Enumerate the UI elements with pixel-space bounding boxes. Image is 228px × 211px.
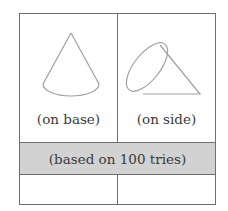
column-divider-bottom: [117, 175, 118, 205]
cone-upright-icon: [20, 14, 117, 114]
label-on-base: (on base): [20, 111, 117, 127]
cone-on-side-icon: [118, 14, 215, 114]
cell-on-side: (on side): [118, 14, 215, 142]
cone-table: (on base) (on side) (based on 100 tries): [19, 13, 216, 205]
cell-on-base: (on base): [20, 14, 117, 142]
band-caption: (based on 100 tries): [20, 142, 215, 175]
label-on-side: (on side): [118, 111, 215, 127]
